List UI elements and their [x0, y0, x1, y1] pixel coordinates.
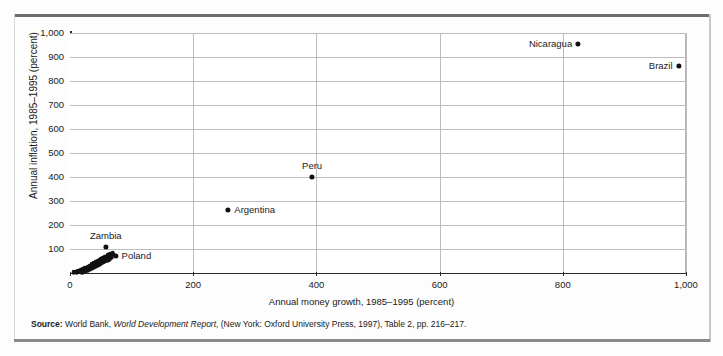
gridline-horizontal [70, 105, 686, 106]
y-tick-label: 600 [18, 124, 64, 134]
gridline-horizontal [70, 177, 686, 178]
source-label: Source: [31, 319, 63, 329]
gridline-vertical [686, 33, 687, 273]
y-tick-label: 400 [18, 172, 64, 182]
gridline-horizontal [70, 153, 686, 154]
x-axis-tick [316, 272, 317, 276]
gridline-vertical [316, 33, 317, 273]
gridline-vertical [563, 33, 564, 273]
gridline-horizontal [70, 81, 686, 82]
x-axis-title: Annual money growth, 1985–1995 (percent) [0, 296, 723, 307]
x-tick-label: 1,000 [674, 279, 698, 290]
y-tick-label: 100 [18, 244, 64, 254]
source-note: Source: World Bank, World Development Re… [31, 319, 466, 330]
x-axis-tick [193, 272, 194, 276]
gridline-horizontal [70, 57, 686, 58]
y-tick-label: 200 [18, 220, 64, 230]
source-text-part1: World Bank, [63, 319, 114, 329]
x-axis-tick [686, 272, 687, 276]
x-axis-tick [563, 272, 564, 276]
figure-left-border [14, 14, 15, 342]
top-divider-rule [14, 14, 710, 17]
source-publication-title: World Development Report [114, 319, 217, 329]
y-axis-title: Annual inflation, 1985–1995 (percent) [28, 1, 39, 231]
x-tick-label: 400 [308, 279, 324, 290]
gridline-horizontal [70, 201, 686, 202]
gridline-vertical [193, 33, 194, 273]
bottom-divider-rule [14, 339, 710, 342]
y-tick-label: 500 [18, 148, 64, 158]
point-label-brazil: Brazil [649, 61, 673, 71]
y-tick-label: 300 [18, 196, 64, 206]
y-tick-label: 800 [18, 76, 64, 86]
x-tick-label: 600 [432, 279, 448, 290]
gridline-horizontal [70, 249, 686, 250]
point-label-zambia: Zambia [90, 231, 122, 241]
figure-right-border [709, 14, 711, 342]
point-label-argentina: Argentina [234, 205, 275, 215]
x-axis-tick [440, 272, 441, 276]
figure-container: NicaraguaBrazilPeruArgentinaZambiaPoland… [0, 0, 723, 356]
scatter-plot-area: NicaraguaBrazilPeruArgentinaZambiaPoland [70, 33, 686, 273]
y-tick-label: 1,000 [18, 28, 64, 38]
x-axis-tick [70, 272, 71, 276]
source-text-part2: , (New York: Oxford University Press, 19… [216, 319, 466, 329]
point-label-poland: Poland [122, 251, 152, 261]
x-tick-label: 800 [555, 279, 571, 290]
y-tick-label: 700 [18, 100, 64, 110]
gridline-horizontal [70, 225, 686, 226]
y-tick-label: 900 [18, 52, 64, 62]
point-label-peru: Peru [302, 161, 322, 171]
point-label-nicaragua: Nicaragua [529, 39, 572, 49]
x-tick-label: 200 [185, 279, 201, 290]
gridline-horizontal [70, 33, 686, 34]
x-tick-label: 0 [67, 279, 72, 290]
gridline-horizontal [70, 129, 686, 130]
gridline-vertical [440, 33, 441, 273]
